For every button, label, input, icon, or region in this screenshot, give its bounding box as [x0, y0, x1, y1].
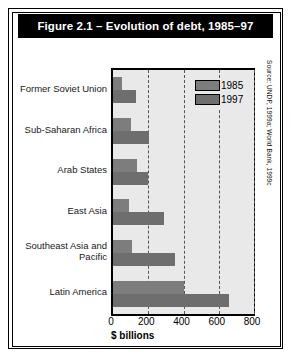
x-tick-label: 200	[138, 316, 155, 327]
legend-swatch-1985	[195, 80, 220, 91]
source-text: Source: UNDP, 1999a; World Bank, 1999c	[266, 60, 273, 186]
category-label: Former Soviet Union	[3, 83, 107, 94]
bar-1985	[113, 240, 132, 253]
bar-group	[113, 233, 254, 274]
legend-swatch-1997	[195, 94, 220, 105]
bar-1997	[113, 294, 229, 307]
x-tick-label: 600	[208, 316, 225, 327]
bar-group	[113, 111, 254, 152]
bar-1985	[113, 199, 129, 212]
bar-1997	[113, 172, 148, 185]
category-label: Arab States	[3, 164, 107, 175]
x-axis-ticks: 0200400600800	[111, 316, 255, 330]
source-note: Source: UNDP, 1999a; World Bank, 1999c	[264, 60, 276, 220]
gridline	[254, 70, 255, 314]
legend-item: 1997	[195, 93, 243, 106]
bar-group	[113, 273, 254, 314]
category-label: Southeast Asia and Pacific	[3, 240, 107, 262]
bar-1997	[113, 253, 175, 266]
category-axis-labels: Former Soviet UnionSub-Saharan AfricaAra…	[0, 68, 107, 312]
bar-group	[113, 151, 254, 192]
category-label: Latin America	[3, 286, 107, 297]
figure-title-bar: Figure 2.1 – Evolution of debt, 1985–97	[18, 14, 273, 38]
bar-group	[113, 192, 254, 233]
bar-1997	[113, 131, 149, 144]
category-label: East Asia	[3, 205, 107, 216]
bar-1985	[113, 118, 131, 131]
chart-container: Former Soviet UnionSub-Saharan AfricaAra…	[0, 46, 291, 346]
category-label: Sub-Saharan Africa	[3, 124, 107, 135]
bar-1985	[113, 77, 122, 90]
x-tick-label: 800	[244, 316, 261, 327]
legend-item: 1985	[195, 79, 243, 92]
bar-1997	[113, 212, 164, 225]
bar-1985	[113, 159, 137, 172]
x-axis-title: $ billions	[111, 330, 154, 341]
legend-label: 1997	[221, 94, 243, 105]
bar-1985	[113, 281, 184, 294]
bar-1997	[113, 90, 136, 103]
x-tick-label: 0	[108, 316, 114, 327]
chart-legend: 1985 1997	[193, 78, 245, 109]
x-tick-label: 400	[173, 316, 190, 327]
legend-label: 1985	[221, 80, 243, 91]
page-title: Figure 2.1 – Evolution of debt, 1985–97	[37, 20, 253, 32]
